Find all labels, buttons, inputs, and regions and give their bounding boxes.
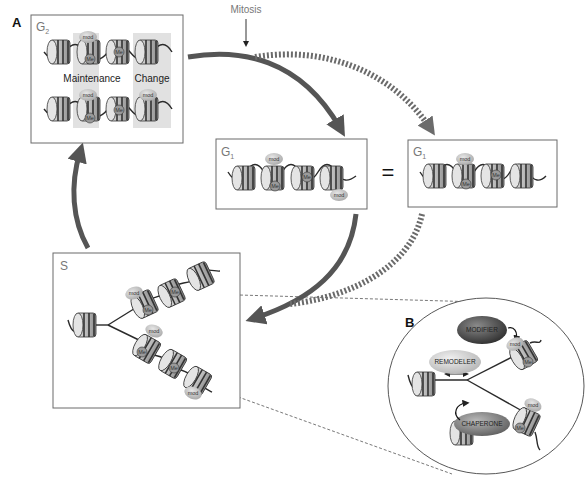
equals-sign: =	[382, 160, 395, 185]
mod-label: mod	[149, 328, 160, 334]
mod-label: mod	[129, 290, 140, 296]
arrow-g2-to-g1	[188, 54, 340, 128]
panel-a-label: A	[12, 15, 22, 30]
nucleosome	[135, 40, 158, 64]
g1-box-middle: G1 mod Me Me mod	[216, 139, 367, 209]
arrow-g1-to-s	[255, 214, 356, 318]
chaperone-label: CHAPERONE	[461, 420, 503, 427]
maintenance-label: Maintenance	[63, 73, 121, 84]
nucleosome	[47, 97, 70, 121]
me-label: Me	[170, 365, 178, 371]
s-phase-label: S	[60, 259, 68, 273]
arrow-s-to-g2	[74, 152, 88, 248]
change-label: Change	[134, 73, 169, 84]
me-label: Me	[516, 425, 524, 431]
me-label: Me	[115, 107, 123, 113]
mod-label: mod	[528, 402, 539, 408]
g2-box: G2 mod Me Me Maintenance Change mod mod …	[31, 15, 183, 143]
me-label: Me	[171, 289, 179, 295]
modifier-label: MODIFIER	[466, 326, 498, 333]
mod-label: mod	[83, 34, 94, 40]
mitosis-label: Mitosis	[230, 4, 261, 15]
mod-label: mod	[334, 192, 345, 198]
me-label: Me	[524, 359, 532, 365]
s-box: S mod Me Me mod Me Me mod	[53, 253, 240, 408]
me-label: Me	[462, 181, 470, 187]
nucleosome	[47, 40, 70, 64]
mod-label: mod	[143, 92, 154, 98]
mod-label: mod	[460, 156, 471, 162]
me-label: Me	[138, 349, 146, 355]
me-label: Me	[86, 115, 94, 121]
me-label: Me	[144, 307, 152, 313]
me-label: Me	[115, 49, 123, 55]
mod-label: mod	[269, 156, 280, 162]
me-label: Me	[271, 183, 279, 189]
arrow-mitosis-to-g1-alt	[255, 54, 430, 128]
mod-label: mod	[510, 341, 521, 347]
epigenetic-cell-cycle-diagram: Mitosis A G2 mod Me Me Maintenance Chang…	[0, 0, 586, 487]
me-label: Me	[303, 174, 311, 180]
me-label: Me	[492, 172, 500, 178]
me-label: Me	[86, 56, 94, 62]
panel-b-circle: MODIFIER REMODELER mod Me mod Me CHAPERO…	[388, 298, 584, 474]
g1-box-right: G1 mod Me Me	[408, 140, 557, 207]
mod-label: mod	[83, 92, 94, 98]
remodeler-label: REMODELER	[434, 358, 475, 365]
mod-label: mod	[188, 390, 199, 396]
